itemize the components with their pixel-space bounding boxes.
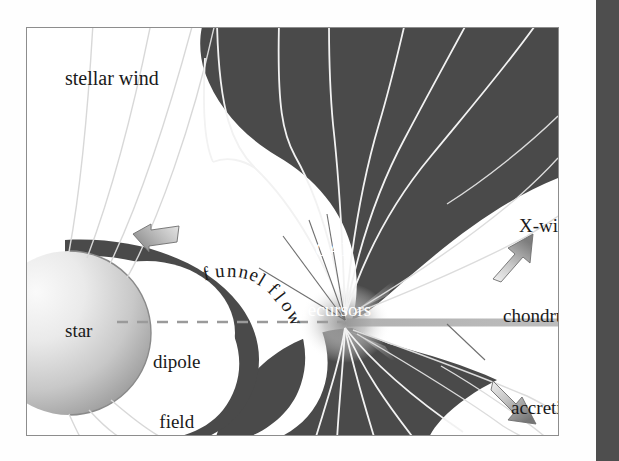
accretion-disk-bar	[347, 319, 558, 327]
figure-page: stellar wind star dipole field CAI precu…	[0, 0, 619, 461]
scan-page-edge-bar	[596, 0, 619, 461]
xwind-diagram	[27, 28, 558, 435]
figure-frame: stellar wind star dipole field CAI precu…	[26, 27, 559, 436]
